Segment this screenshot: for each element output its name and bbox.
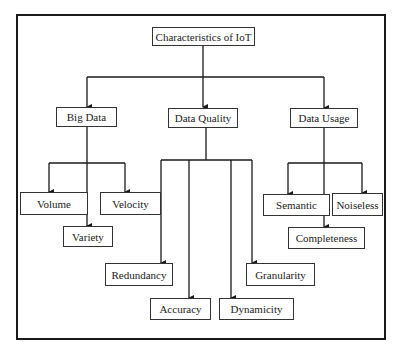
node-completeness: Completeness (288, 227, 365, 249)
node-redundancy: Redundancy (105, 263, 173, 286)
node-volume: Volume (20, 192, 88, 215)
node-velocity: Velocity (100, 192, 161, 215)
node-data-quality: Data Quality (168, 108, 238, 128)
node-root: Characteristics of IoT (152, 27, 255, 46)
node-variety: Variety (63, 226, 113, 247)
node-noiseless: Noiseless (332, 193, 383, 216)
node-big-data: Big Data (56, 107, 117, 127)
node-granularity: Granularity (246, 263, 315, 286)
node-data-usage: Data Usage (290, 108, 358, 128)
node-dynamicity: Dynamicity (219, 298, 294, 320)
node-accuracy: Accuracy (150, 298, 211, 320)
node-semantic: Semantic (263, 194, 330, 216)
